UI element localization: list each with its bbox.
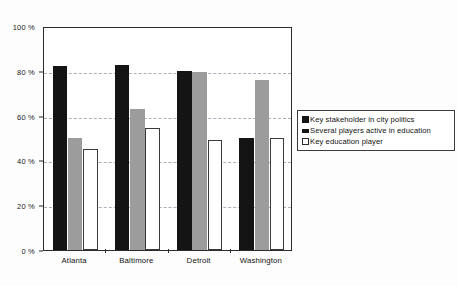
x-tick-label-atlanta: Atlanta — [61, 256, 86, 265]
y-axis: 0 %20 %40 %60 %80 %100 % — [0, 27, 43, 251]
bar-group — [106, 28, 168, 250]
x-tick-label-detroit: Detroit — [187, 256, 211, 265]
x-tick-label-washington: Washington — [240, 256, 282, 265]
y-tick-label: 20 % — [17, 202, 35, 211]
bar-group — [231, 28, 293, 250]
bar-group — [169, 28, 231, 250]
bar — [239, 138, 254, 250]
bar — [83, 149, 98, 250]
y-tick-label: 0 % — [21, 247, 35, 256]
bar — [68, 138, 83, 250]
bar — [130, 109, 145, 250]
legend-item[interactable]: Several players active in education — [300, 125, 451, 136]
bar — [115, 65, 130, 250]
bar — [177, 71, 192, 250]
legend-item[interactable]: Key stakeholder in city politics — [300, 114, 451, 125]
x-tick-label-baltimore: Baltimore — [119, 256, 153, 265]
bar-chart: 0 %20 %40 %60 %80 %100 % AtlantaBaltimor… — [0, 0, 458, 285]
bar — [192, 72, 207, 250]
bar — [145, 128, 160, 250]
x-tick-mark — [105, 249, 106, 253]
bar — [255, 80, 270, 250]
y-tick-label: 60 % — [17, 112, 35, 121]
plot-area — [43, 27, 292, 251]
legend-swatch-icon — [302, 138, 309, 145]
legend-swatch-icon — [302, 116, 309, 123]
bars-layer — [44, 28, 291, 250]
y-tick-label: 80 % — [17, 67, 35, 76]
legend-label: Several players active in education — [310, 125, 431, 136]
legend-swatch-icon — [302, 129, 309, 133]
bar — [53, 66, 68, 250]
x-tick-mark — [230, 249, 231, 253]
x-tick-mark — [168, 249, 169, 253]
bar-group — [44, 28, 106, 250]
legend-item[interactable]: Key education player — [300, 136, 451, 147]
y-tick-label: 40 % — [17, 157, 35, 166]
y-tick-label: 100 % — [13, 23, 35, 32]
legend: Key stakeholder in city politicsSeveral … — [297, 110, 455, 151]
legend-label: Key stakeholder in city politics — [310, 114, 415, 125]
legend-label: Key education player — [310, 136, 383, 147]
bar — [270, 138, 285, 250]
x-axis: AtlantaBaltimoreDetroitWashington — [43, 253, 292, 273]
bar — [208, 140, 223, 250]
